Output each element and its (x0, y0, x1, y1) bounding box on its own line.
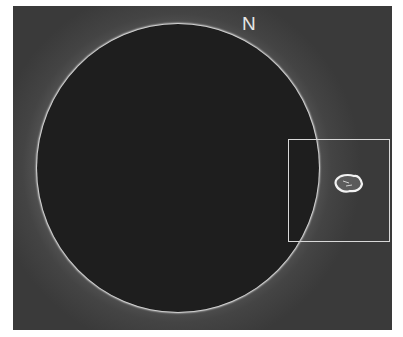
moon-disc (37, 24, 319, 312)
north-label: N (242, 14, 256, 34)
solar-prominence (334, 173, 364, 195)
eclipse-photo: N (13, 6, 392, 330)
